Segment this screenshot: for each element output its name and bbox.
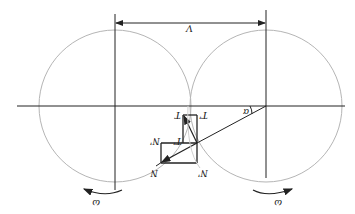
angle-arc [250,106,252,114]
right-rotation-arrow [253,189,292,194]
t-prime-label: T' [199,110,208,122]
n-extension-line [156,162,162,166]
velocity-label: V [185,23,193,35]
omega-left-label: ω [92,198,100,210]
angle-label: α [243,107,249,119]
t-diagonal [184,116,197,143]
t-double-prime-label: T' [173,136,182,148]
t-label: T [174,110,181,122]
n-double-prime-label: N' [198,168,209,180]
left-rotation-arrow [84,189,122,194]
diagram-canvas: V α T T' T' N' N N' ω ω [0,0,355,214]
force-diagram: V α T T' T' N' N N' ω ω [0,0,355,214]
omega-right-label: ω [274,198,282,210]
n-label: N [150,168,159,180]
n-prime-label: N' [150,136,161,148]
